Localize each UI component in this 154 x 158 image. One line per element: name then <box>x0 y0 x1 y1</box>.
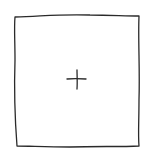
add-item-tile[interactable] <box>0 0 154 158</box>
plus-icon <box>67 70 86 89</box>
